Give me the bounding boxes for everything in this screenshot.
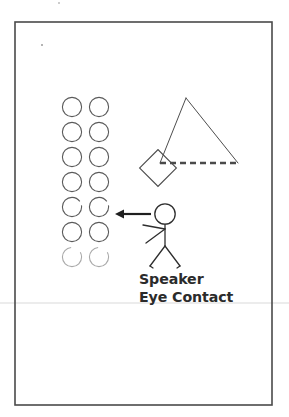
- podium-diamond: [140, 150, 177, 187]
- audience-circle: [89, 247, 108, 266]
- figure-leg-left: [150, 246, 165, 266]
- audience-circle: [62, 222, 81, 241]
- caption-line-2: Eye Contact: [139, 289, 269, 307]
- audience-circle: [62, 197, 81, 216]
- audience-circle: [89, 197, 108, 216]
- audience-circle: [89, 147, 108, 166]
- audience-circle: [62, 147, 81, 166]
- scan-speck-inner: [41, 44, 43, 46]
- audience-circle: [89, 172, 108, 191]
- audience-circle: [89, 97, 108, 116]
- audience-circle: [62, 122, 81, 141]
- audience-circle: [89, 222, 108, 241]
- audience-circle: [62, 247, 81, 266]
- caption-line-1: Speaker: [139, 271, 269, 289]
- figure-arm-upper: [143, 225, 165, 229]
- audience-circle: [62, 172, 81, 191]
- triangle-right-edge: [186, 98, 238, 163]
- figure-foot-right: [177, 266, 180, 268]
- figure-head: [155, 204, 175, 224]
- sightline-triangle: [160, 98, 238, 163]
- eye-contact-arrow: [115, 210, 151, 219]
- scanned-page: Speaker Eye Contact: [0, 0, 289, 417]
- audience-circle: [62, 97, 81, 116]
- audience-circle-grid: [62, 97, 108, 266]
- triangle-left-edge: [160, 98, 186, 163]
- speaker-eye-contact-caption: Speaker Eye Contact: [139, 271, 269, 306]
- figure-arm-lower: [146, 229, 165, 243]
- arrow-head: [115, 210, 124, 219]
- audience-circle: [89, 122, 108, 141]
- figure-leg-right: [165, 246, 180, 266]
- diagram-canvas: [0, 0, 289, 417]
- scan-speck-outer: [58, 2, 60, 4]
- figure-foot-left: [150, 266, 153, 268]
- podium-diamond-rect: [140, 150, 177, 187]
